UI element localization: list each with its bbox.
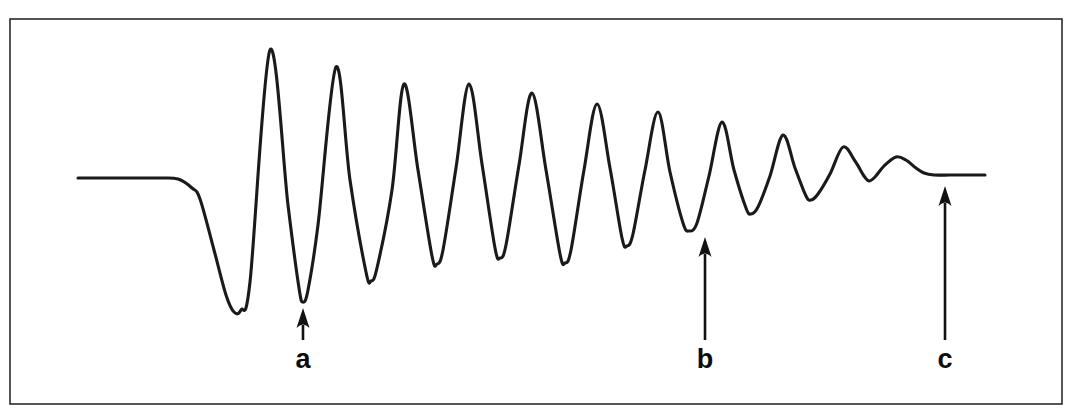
figure-frame-border bbox=[10, 19, 1062, 404]
waveform-figure: abc bbox=[0, 0, 1070, 414]
annotation-b-label: b bbox=[697, 344, 714, 374]
annotation-c-label: c bbox=[937, 344, 952, 374]
annotation-a-label: a bbox=[295, 344, 311, 374]
figure-root: abc bbox=[0, 0, 1070, 414]
